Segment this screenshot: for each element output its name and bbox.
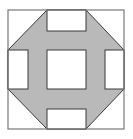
right-side-white-rect bbox=[105, 50, 124, 89]
left-side-white-rect bbox=[8, 50, 28, 89]
quilt-block-diagram bbox=[0, 0, 133, 139]
center-white-square bbox=[47, 50, 86, 89]
top-side-white-rect bbox=[47, 10, 86, 31]
bottom-side-white-rect bbox=[47, 109, 86, 129]
